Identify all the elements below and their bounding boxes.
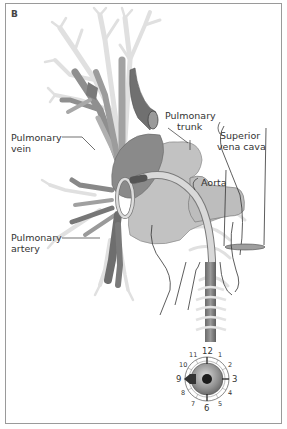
- dial-1: 1: [218, 351, 222, 359]
- dial-2: 2: [228, 361, 232, 369]
- esophagus-tube: [205, 262, 216, 342]
- dial-3: 3: [232, 374, 237, 384]
- label-pulmonary-trunk-2: trunk: [177, 121, 203, 132]
- dial-12: 12: [202, 346, 213, 356]
- label-pulmonary-vein-1: Pulmonary: [11, 132, 62, 143]
- anatomy-diagram: B: [0, 0, 287, 429]
- dial-4: 4: [228, 389, 232, 397]
- label-pulmonary-artery-2: artery: [11, 243, 40, 254]
- dial-6: 6: [204, 403, 209, 413]
- label-pulmonary-artery-1: Pulmonary: [11, 232, 62, 243]
- vessel-opening: [148, 111, 158, 129]
- panel-label: B: [11, 9, 18, 19]
- label-svc-1: Superior: [220, 130, 260, 141]
- label-pulmonary-trunk-1: Pulmonary: [165, 110, 216, 121]
- dial-9: 9: [176, 374, 181, 384]
- dial-11: 11: [189, 351, 197, 359]
- dial-5: 5: [218, 400, 222, 408]
- label-svc-2: vena cava: [217, 141, 266, 152]
- label-pulmonary-vein-2: vein: [11, 143, 31, 154]
- clock-dial: 12 1 2 3 4 5 6 7 8 9 10 11: [176, 346, 237, 413]
- dial-8: 8: [181, 389, 185, 397]
- dial-7: 7: [191, 400, 195, 408]
- label-aorta: Aorta: [201, 177, 227, 188]
- dial-10: 10: [179, 361, 187, 369]
